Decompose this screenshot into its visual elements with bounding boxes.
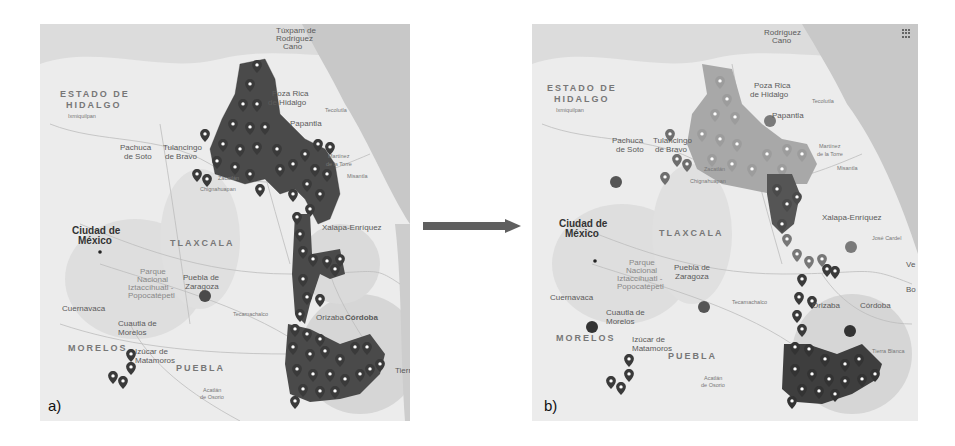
label-papantla: Papantla [290, 120, 322, 128]
label-martinez-1: Martínez [328, 154, 349, 160]
label-parque-4: Popocatépetl [128, 292, 175, 300]
label-estado-de: ESTADO DE [60, 90, 130, 99]
right-arrow-icon [423, 214, 521, 238]
label-chignahuapan: Chignahuapan [200, 187, 236, 193]
label-jose-cardel: José Cardel [872, 236, 901, 242]
label-ixmiquilpan: Ixmiquilpan [556, 108, 584, 114]
panel-tag-b: b) [544, 397, 557, 414]
label-acatlan-1: Acatlán [203, 388, 221, 394]
panel-tag-a: a) [48, 397, 61, 414]
label-cuernavaca: Cuernavaca [62, 305, 105, 313]
label-chignahuapan: Chignahuapan [690, 179, 726, 185]
label-estado-de: ESTADO DE [547, 84, 617, 93]
label-puebla-city-2: Zaragoza [675, 273, 709, 281]
label-tuxpam-3: Cano [772, 37, 791, 45]
label-izucar-2: Matamoros [632, 345, 672, 353]
label-tecolutla: Tecolutla [325, 108, 347, 114]
label-hidalgo: HIDALGO [66, 101, 122, 110]
label-tecamachalco: Tecamachalco [732, 300, 767, 306]
label-cdmx-2: México [565, 229, 599, 240]
label-xalapa: Xalapa-Enríquez [322, 224, 382, 232]
label-cuautla-2: Morelos [606, 318, 634, 326]
map-panel-a: ESTADO DE HIDALGO Ixmiquilpan Túxpam de … [40, 24, 410, 421]
label-martinez-1: Martínez [819, 144, 840, 150]
label-misantla: Misantla [347, 174, 367, 180]
label-tecamachalco: Tecamachalco [233, 312, 268, 318]
label-zacatlan: Zacatlán [218, 176, 239, 182]
label-cordoba: Córdoba [345, 314, 378, 322]
label-tlaxcala: TLAXCALA [170, 239, 235, 248]
label-morelos: MORELOS [68, 344, 128, 353]
label-parque-4: Popocatépetl [617, 283, 664, 291]
label-xalapa: Xalapa-Enríquez [822, 214, 882, 222]
label-acatlan-1: Acatlán [704, 376, 722, 382]
label-orizaba: Orizaba [812, 302, 840, 310]
label-martinez-2: de la Torre [817, 152, 843, 158]
label-pachuca-2: de Soto [616, 146, 644, 154]
label-acatlan-2: de Osorio [200, 395, 224, 401]
label-papantla: Papantla [772, 112, 804, 120]
map-panel-b: ESTADO DE HIDALGO Ixmiquilpan Rodríguez … [532, 24, 918, 421]
label-puebla-state: PUEBLA [668, 352, 717, 361]
label-martinez-2: de la Torre [326, 162, 352, 168]
label-tecolutla: Tecolutla [812, 99, 834, 105]
label-morelos: MORELOS [556, 334, 616, 343]
label-cordoba: Córdoba [860, 302, 891, 310]
label-puebla-state: PUEBLA [176, 364, 225, 373]
label-puebla-city-2: Zaragoza [185, 283, 219, 291]
label-izucar-2: Matamoros [135, 357, 175, 365]
label-acatlan-2: de Osorio [701, 383, 725, 389]
label-tuxpam-3: Cano [283, 43, 302, 51]
label-tulancingo-2: de Bravo [655, 146, 687, 154]
label-orizaba: Orizaba [316, 314, 344, 322]
label-cuautla-2: Morelos [118, 329, 146, 337]
label-pachuca-2: de Soto [124, 153, 152, 161]
label-bo: Bo [906, 286, 916, 294]
cluster-badge-pachuca [610, 176, 622, 188]
label-tulancingo-2: de Bravo [165, 153, 197, 161]
label-zacatlan: Zacatlán [704, 167, 725, 173]
label-ixmiquilpan: Ixmiquilpan [68, 114, 96, 120]
label-poza-rica-2: de Hidalgo [268, 99, 306, 107]
label-tlaxcala: TLAXCALA [659, 229, 724, 238]
label-poza-rica-2: de Hidalgo [750, 91, 788, 99]
label-hidalgo: HIDALGO [554, 95, 610, 104]
label-cdmx-2: México [78, 236, 112, 247]
label-ve: Ve [906, 261, 915, 269]
label-tierra-blanca: Tierra Blanca [872, 349, 905, 355]
label-misantla: Misantla [837, 166, 857, 172]
label-cuernavaca: Cuernavaca [550, 294, 593, 302]
app-grid-icon[interactable] [902, 29, 910, 38]
label-tierra: Tierr [395, 367, 410, 375]
